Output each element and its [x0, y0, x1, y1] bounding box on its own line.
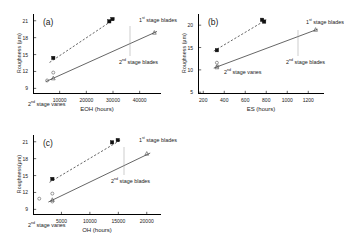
series-annotation-label: 1st stage blades — [306, 19, 344, 25]
y-axis-title: Roughness (µm) — [181, 15, 187, 91]
data-point-marker — [52, 71, 55, 74]
chart-panel-c: 9121518215000100001500020000(c)1st stage… — [33, 135, 161, 241]
series-annotation-label: 1st stage blades — [139, 137, 177, 143]
chart-panel-b: 510152020040060080010001200(b)1st stage … — [198, 14, 324, 120]
y-axis-title: Roughness (µm) — [16, 15, 22, 91]
data-point-marker — [262, 20, 265, 23]
panel-letter-label: (a) — [43, 17, 53, 27]
data-point-marker — [108, 20, 111, 23]
trend-line — [50, 19, 115, 62]
trend-line — [46, 31, 157, 81]
data-point-marker — [116, 138, 119, 141]
data-point-marker — [51, 192, 54, 195]
y-axis-title: Roughness(µm) — [16, 136, 22, 212]
series-annotation-label: 1st stage blades — [139, 17, 177, 23]
series-annotation-label: 2nd stage vanes — [224, 69, 262, 75]
series-annotation-label: 2nd stage blades — [119, 59, 158, 65]
x-axis-title: OH (hours) — [33, 227, 161, 233]
data-point-marker — [52, 56, 55, 59]
data-point-marker — [38, 197, 41, 200]
data-point-marker — [215, 61, 218, 64]
x-axis-title: EOH (hours) — [33, 106, 161, 112]
panel-letter-label: (c) — [43, 138, 53, 148]
trend-line — [49, 140, 120, 182]
data-point-marker — [215, 49, 218, 52]
panel-letter-label: (b) — [208, 17, 218, 27]
chart-panel-a: 91215182110000200003000040000(a)1st stag… — [33, 14, 161, 120]
data-point-marker — [110, 141, 113, 144]
data-point-marker — [51, 177, 54, 180]
series-annotation-label: 2nd stage blades — [111, 178, 150, 184]
trend-line — [214, 20, 267, 51]
series-annotation-label: 2nd stage blades — [286, 59, 325, 65]
data-point-marker — [111, 17, 114, 20]
x-axis-title: ES (hours) — [198, 106, 324, 112]
